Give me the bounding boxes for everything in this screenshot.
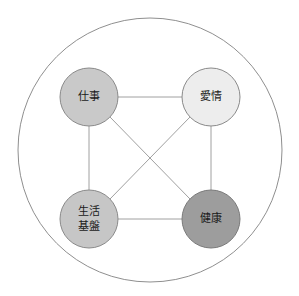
node-label-life-foundation: 生活 [78, 204, 101, 218]
outer-boundary-circle [18, 18, 282, 282]
node-love[interactable]: 愛情 [182, 68, 240, 126]
diagram-canvas: 仕事愛情生活基盤健康 [0, 0, 299, 296]
node-label-life-foundation: 基盤 [78, 220, 101, 233]
node-health[interactable]: 健康 [182, 190, 240, 248]
node-work[interactable]: 仕事 [60, 68, 118, 126]
node-label-love: 愛情 [200, 90, 223, 103]
node-label-work: 仕事 [78, 90, 101, 103]
node-life-foundation[interactable]: 生活基盤 [60, 190, 118, 248]
node-label-health: 健康 [200, 211, 223, 225]
node-network-diagram: 仕事愛情生活基盤健康 [0, 0, 299, 296]
